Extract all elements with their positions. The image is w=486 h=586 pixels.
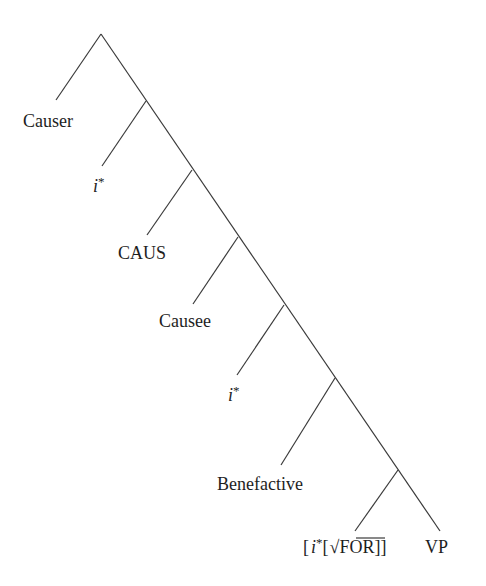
syntax-tree-diagram: Causer i* CAUS Causee i* Benefactive [i*… [0,0,486,586]
spine-edge [101,34,440,531]
star-symbol: * [233,383,240,398]
bracket-close: ]] [374,537,386,557]
label-causee: Causee [159,311,211,331]
label-i-star-1: i* [93,174,105,196]
edge-i-star-for [355,470,398,531]
label-benefactive: Benefactive [217,474,303,494]
bracket-open: [ [303,537,309,557]
edge-causer [56,34,101,100]
label-caus: CAUS [118,243,166,263]
edge-benefactive [281,378,335,465]
edge-causee [193,237,238,304]
label-vp: VP [425,537,448,557]
edge-i-star-1 [102,101,146,166]
star-symbol: * [98,174,105,189]
edge-i-star-2 [237,305,284,375]
edge-caus [147,170,192,235]
root-word: FOR [339,537,374,557]
bracket-open-inner: [ [323,537,329,557]
label-i-star-2: i* [228,383,240,405]
label-causer: Causer [23,111,73,131]
root-sign-icon: √ [330,537,340,557]
